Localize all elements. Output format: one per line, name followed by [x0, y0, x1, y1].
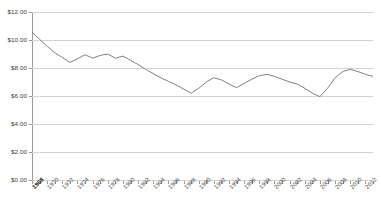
- plot-area: [32, 12, 373, 180]
- data-series-line: [32, 12, 373, 180]
- y-axis-tick-mark: [29, 96, 32, 97]
- y-axis-tick-mark: [29, 68, 32, 69]
- y-axis-tick-label: $2.00: [11, 149, 27, 155]
- y-axis-tick-mark: [29, 152, 32, 153]
- y-axis-tick-mark: [29, 124, 32, 125]
- y-axis-tick-label: $8.00: [11, 65, 27, 71]
- y-axis-tick-label: $4.00: [11, 121, 27, 127]
- y-axis-tick-labels: $12.00$10.00$8.00$6.00$4.00$2.00$0.00: [0, 0, 30, 218]
- y-axis-tick-label: $0.00: [11, 177, 27, 183]
- y-axis-tick-label: $10.00: [7, 37, 27, 43]
- y-axis-tick-mark: [29, 12, 32, 13]
- y-axis-tick-mark: [29, 40, 32, 41]
- line-chart: $12.00$10.00$8.00$6.00$4.00$2.00$0.00 19…: [0, 0, 381, 218]
- y-axis-tick-mark: [29, 180, 32, 181]
- series-path: [32, 32, 373, 96]
- y-axis-tick-label: $6.00: [11, 93, 27, 99]
- y-axis-tick-label: $12.00: [7, 9, 27, 15]
